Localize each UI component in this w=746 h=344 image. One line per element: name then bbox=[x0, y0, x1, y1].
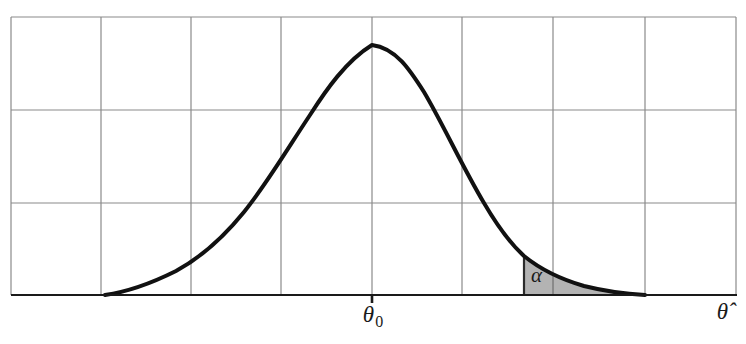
theta-zero-subscript: 0 bbox=[375, 313, 383, 330]
distribution-curve bbox=[105, 45, 645, 295]
alpha-region-label: α bbox=[531, 265, 542, 286]
vertical-gridlines bbox=[11, 17, 736, 295]
theta-zero-symbol: θ bbox=[363, 302, 374, 327]
x-axis-right-label: θ̂ bbox=[717, 300, 728, 323]
sampling-distribution-plot bbox=[0, 0, 746, 344]
alpha-shaded-region bbox=[524, 256, 645, 295]
x-axis-center-label: θ0 bbox=[0, 303, 746, 330]
distribution-figure: θ0 θ̂ α bbox=[0, 0, 746, 344]
